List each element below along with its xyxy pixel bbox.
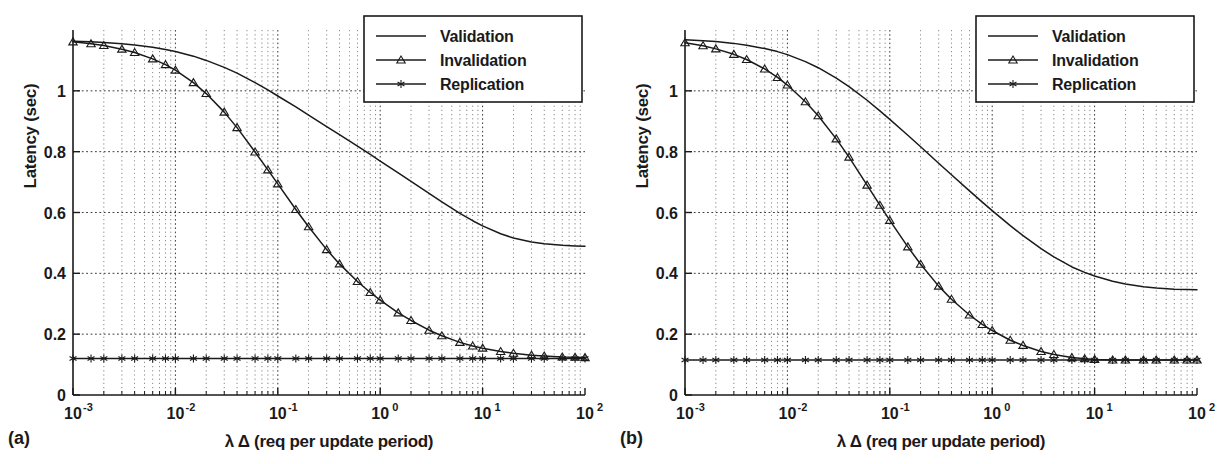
x-tick-label: 10-1: [269, 401, 298, 422]
x-tick-label: 101: [1086, 401, 1113, 422]
y-tick-label: 1: [669, 83, 678, 100]
plot-area-a: 00.20.40.60.8110-310-210-1100101102Valid…: [0, 0, 612, 464]
svg-text:10: 10: [576, 405, 594, 422]
svg-text:10: 10: [269, 405, 287, 422]
svg-text:2: 2: [597, 401, 603, 413]
svg-text:1: 1: [495, 401, 501, 413]
svg-text:10: 10: [881, 405, 899, 422]
legend-a: ValidationInvalidationReplication: [364, 16, 582, 102]
x-axis-title-b: λ Δ (req per update period): [685, 432, 1197, 452]
panel-label-b: (b): [620, 428, 643, 449]
y-tick-label: 0.6: [656, 205, 678, 222]
svg-text:-1: -1: [288, 401, 298, 413]
svg-text:10: 10: [64, 405, 82, 422]
panel-b: 00.20.40.60.8110-310-210-1100101102Valid…: [612, 0, 1224, 464]
y-tick-label: 0.2: [44, 326, 66, 343]
legend-label: Replication: [1052, 76, 1136, 93]
x-tick-label: 100: [371, 401, 398, 422]
panel-label-a: (a): [8, 428, 30, 449]
svg-text:10: 10: [371, 405, 389, 422]
svg-text:-3: -3: [83, 401, 93, 413]
y-tick-label: 0.2: [656, 326, 678, 343]
x-tick-label: 10-3: [64, 401, 93, 422]
x-tick-labels-b: 10-310-210-1100101102: [676, 401, 1215, 422]
series-replication: [70, 355, 589, 363]
y-axis-title-b: Latency (sec): [633, 61, 653, 211]
svg-text:10: 10: [1086, 405, 1104, 422]
x-tick-label: 101: [474, 401, 501, 422]
svg-text:-1: -1: [900, 401, 910, 413]
x-tick-label: 10-2: [167, 401, 196, 422]
svg-text:1: 1: [1107, 401, 1113, 413]
x-tick-label: 10-1: [881, 401, 910, 422]
y-axis-title-a: Latency (sec): [21, 61, 41, 211]
legend-b: ValidationInvalidationReplication: [976, 16, 1194, 102]
x-tick-label: 10-2: [779, 401, 808, 422]
svg-text:10: 10: [167, 405, 185, 422]
svg-text:10: 10: [983, 405, 1001, 422]
panel-a: 00.20.40.60.8110-310-210-1100101102Valid…: [0, 0, 612, 464]
y-tick-label: 0.4: [656, 265, 678, 282]
svg-text:10: 10: [1188, 405, 1206, 422]
legend-label: Validation: [440, 28, 514, 45]
legend-label: Validation: [1052, 28, 1126, 45]
x-tick-label: 102: [576, 401, 603, 422]
y-tick-label: 0: [669, 387, 678, 404]
x-tick-labels-a: 10-310-210-1100101102: [64, 401, 603, 422]
svg-text:10: 10: [779, 405, 797, 422]
y-tick-label: 0: [57, 387, 66, 404]
x-axis-title-a: λ Δ (req per update period): [73, 432, 585, 452]
y-tick-label: 1: [57, 83, 66, 100]
svg-text:-2: -2: [798, 401, 808, 413]
svg-text:10: 10: [474, 405, 492, 422]
x-tick-label: 100: [983, 401, 1010, 422]
y-tick-labels-a: 00.20.40.60.81: [44, 83, 66, 404]
figure-two-panel-latency: 00.20.40.60.8110-310-210-1100101102Valid…: [0, 0, 1224, 464]
y-tick-label: 0.8: [44, 144, 66, 161]
x-tick-label: 10-3: [676, 401, 705, 422]
legend-label: Invalidation: [1052, 52, 1139, 69]
y-tick-label: 0.4: [44, 265, 66, 282]
y-tick-label: 0.6: [44, 205, 66, 222]
svg-text:-2: -2: [186, 401, 196, 413]
legend-label: Replication: [440, 76, 524, 93]
plot-area-b: 00.20.40.60.8110-310-210-1100101102Valid…: [612, 0, 1224, 464]
svg-text:10: 10: [676, 405, 694, 422]
y-tick-label: 0.8: [656, 144, 678, 161]
svg-text:0: 0: [1004, 401, 1010, 413]
x-tick-label: 102: [1188, 401, 1215, 422]
svg-text:0: 0: [392, 401, 398, 413]
svg-text:-3: -3: [695, 401, 705, 413]
legend-label: Invalidation: [440, 52, 527, 69]
svg-text:2: 2: [1209, 401, 1215, 413]
y-tick-labels-b: 00.20.40.60.81: [656, 83, 678, 404]
